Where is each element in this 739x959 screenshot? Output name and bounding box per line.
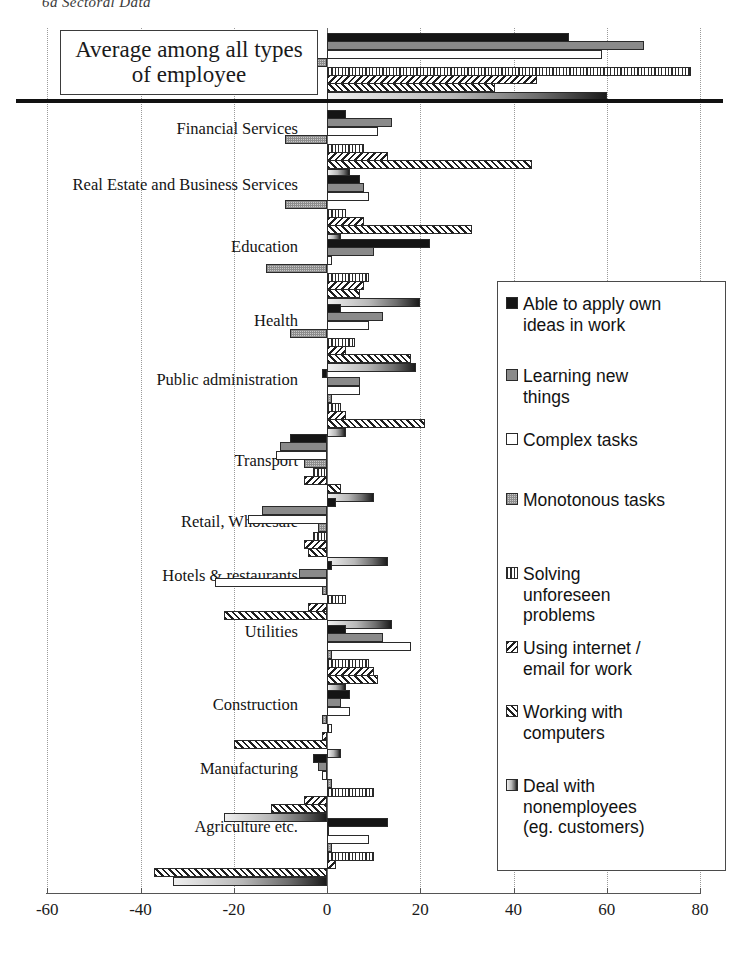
bar-7 xyxy=(173,877,327,886)
legend-item-label: Monotonous tasks xyxy=(523,490,665,511)
x-tick-label: -60 xyxy=(17,900,77,920)
forward-hatch-key xyxy=(506,705,518,717)
average-callout-text: Average among all types of employee xyxy=(61,38,317,88)
bar-2 xyxy=(327,192,369,201)
bar-7 xyxy=(327,298,420,307)
horizontal-stripe-key xyxy=(506,567,518,579)
legend-item[interactable]: Complex tasks xyxy=(506,430,638,451)
x-tick-label: 0 xyxy=(297,900,357,920)
bar-4 xyxy=(327,595,346,604)
white-key xyxy=(506,433,518,445)
bar-7 xyxy=(327,363,416,372)
bar-3 xyxy=(266,264,327,273)
legend-item-label: Using internet / email for work xyxy=(523,638,641,679)
bar-2 xyxy=(215,578,327,587)
bar-2 xyxy=(327,321,369,330)
legend-item[interactable]: Deal with nonemployees (eg. customers) xyxy=(506,776,645,838)
average-callout-box: Average among all types of employee xyxy=(60,30,318,95)
legend-item-label: Complex tasks xyxy=(523,430,638,451)
bar-6 xyxy=(327,225,472,234)
bar-0 xyxy=(327,561,332,570)
x-tick-label: 20 xyxy=(390,900,450,920)
legend-item-label: Able to apply own ideas in work xyxy=(523,294,661,335)
bar-3 xyxy=(290,329,327,338)
bar-3 xyxy=(285,135,327,144)
x-axis-line xyxy=(46,893,700,894)
legend-item-label: Solving unforeseen problems xyxy=(523,564,611,626)
bar-2 xyxy=(327,835,369,844)
legend-item-label: Working with computers xyxy=(523,702,623,743)
bar-2 xyxy=(248,515,327,524)
x-tick-label: -20 xyxy=(204,900,264,920)
bar-6 xyxy=(224,611,327,620)
legend-item[interactable]: Monotonous tasks xyxy=(506,490,665,511)
bar-2 xyxy=(327,256,332,265)
legend-item-label: Deal with nonemployees (eg. customers) xyxy=(523,776,645,838)
category-label: Utilities xyxy=(58,623,298,641)
gridline--60 xyxy=(47,28,48,893)
category-label: Manufacturing xyxy=(58,760,298,778)
bar-2 xyxy=(327,127,378,136)
x-tick-mark-80 xyxy=(700,888,701,894)
mid-grey-key xyxy=(506,369,518,381)
legend-item[interactable]: Using internet / email for work xyxy=(506,638,641,679)
legend-item[interactable]: Able to apply own ideas in work xyxy=(506,294,661,335)
solid-black-key xyxy=(506,297,518,309)
category-label: Financial Services xyxy=(58,120,298,138)
bar-6 xyxy=(327,160,532,169)
bar-4 xyxy=(327,788,374,797)
bar-2 xyxy=(327,50,602,59)
category-label: Health xyxy=(58,312,298,330)
legend-item-label: Learning new things xyxy=(523,366,628,407)
bar-1 xyxy=(327,247,374,256)
bar-4 xyxy=(327,724,332,733)
bar-5 xyxy=(327,860,336,869)
legend-item[interactable]: Solving unforeseen problems xyxy=(506,564,611,626)
bar-3 xyxy=(285,200,327,209)
fine-grid-key xyxy=(506,493,518,505)
bar-7 xyxy=(224,813,327,822)
bar-7 xyxy=(327,557,388,566)
bar-0 xyxy=(327,818,388,827)
bar-0 xyxy=(327,498,336,507)
gradient-key xyxy=(506,779,518,791)
bar-2 xyxy=(327,642,411,651)
legend-item[interactable]: Learning new things xyxy=(506,366,628,407)
chart-legend: Able to apply own ideas in workLearning … xyxy=(497,281,726,871)
x-tick-label: -40 xyxy=(111,900,171,920)
category-label: Construction xyxy=(58,696,298,714)
average-separator-rule xyxy=(16,99,723,103)
bar-6 xyxy=(308,548,327,557)
back-hatch-key xyxy=(506,641,518,653)
bar-7 xyxy=(327,749,341,758)
bar-2 xyxy=(327,386,360,395)
legend-item[interactable]: Working with computers xyxy=(506,702,623,743)
x-tick-label: 80 xyxy=(670,900,730,920)
gridline-20 xyxy=(420,28,421,893)
category-label: Public administration xyxy=(58,371,298,389)
bar-2 xyxy=(327,707,350,716)
category-label: Real Estate and Business Services xyxy=(58,176,298,194)
x-tick-label: 40 xyxy=(484,900,544,920)
bar-5 xyxy=(304,476,327,485)
x-tick-label: 60 xyxy=(577,900,637,920)
category-label: Transport xyxy=(58,452,298,470)
category-label: Education xyxy=(58,238,298,256)
bar-7 xyxy=(327,428,346,437)
bar-6 xyxy=(234,740,327,749)
